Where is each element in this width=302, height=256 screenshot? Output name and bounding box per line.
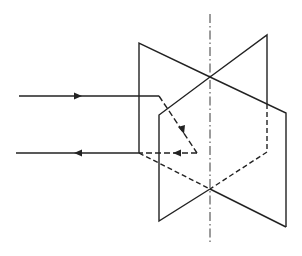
plane-a-bottom-visible (210, 189, 286, 227)
arrow-left-icon (173, 150, 181, 157)
incident-ray-hidden (159, 96, 197, 153)
plane-a-outline (139, 43, 286, 227)
plane-b-outline (159, 35, 267, 221)
plane-b-bottom-hidden (210, 152, 267, 189)
arrow-right-icon (74, 93, 82, 100)
arrow-left-icon (74, 150, 82, 157)
plane-a-bottom-hidden (139, 153, 210, 189)
corner-reflector-diagram (0, 0, 302, 256)
